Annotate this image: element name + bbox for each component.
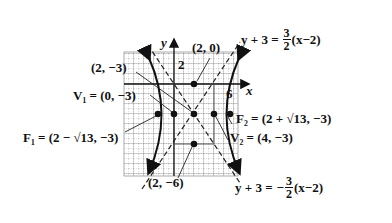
- label-point-2-0: (2, 0): [192, 41, 220, 54]
- label-v2: V₂ = (4, −3): [230, 131, 293, 144]
- point-v2: [211, 111, 218, 118]
- point-2-0: [191, 81, 198, 88]
- label-center: (2, −3): [91, 61, 127, 74]
- point-2-neg6: [191, 141, 198, 148]
- label-f2: F₂ = (2 + √13, −3): [236, 112, 331, 125]
- point-f1: [155, 111, 162, 118]
- label-v1: V₁ = (0, −3): [73, 89, 136, 102]
- point-center: [191, 111, 198, 118]
- x-axis-label: x: [246, 84, 253, 97]
- x-tick-label: 6: [226, 87, 233, 100]
- asymptote-lower-equation: y + 3 = − 32 (x−2): [235, 175, 323, 200]
- label-f1: F₁ = (2 − √13, −3): [23, 131, 118, 144]
- point-v1: [171, 111, 178, 118]
- fraction: 32: [285, 175, 293, 200]
- y-axis-label: y: [161, 36, 167, 49]
- asymptote-upper-equation: y + 3 = 32 (x−2): [241, 27, 321, 52]
- hyperbola-graph: [0, 0, 392, 223]
- label-point-2-neg6: (2, −6): [148, 176, 184, 189]
- fraction: 32: [283, 27, 291, 52]
- y-tick-label: 2: [178, 58, 185, 71]
- point-f2: [227, 111, 234, 118]
